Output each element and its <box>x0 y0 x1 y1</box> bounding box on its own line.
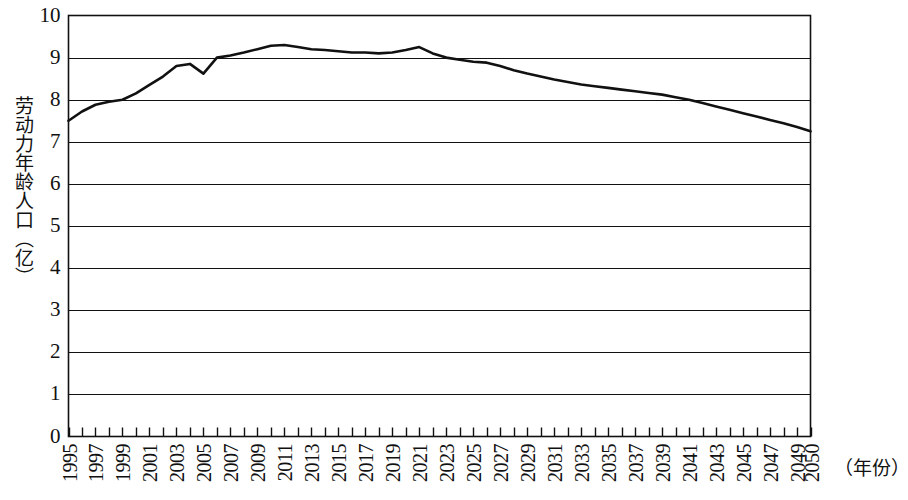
x-axis-title: （年份） <box>834 458 908 478</box>
plot-area <box>0 0 908 500</box>
x-tick-label: 2017 <box>356 444 376 500</box>
x-tick-label: 2041 <box>680 444 700 500</box>
x-tick-label: 2039 <box>653 444 673 500</box>
x-tick-label: 2003 <box>167 444 187 500</box>
x-tick-label: 2019 <box>383 444 403 500</box>
x-tick-label: 2011 <box>275 444 295 500</box>
x-tick-label: 2047 <box>761 444 781 500</box>
x-tick-label: 2001 <box>140 444 160 500</box>
x-tick-label: 2025 <box>464 444 484 500</box>
x-tick-label: 2005 <box>194 444 214 500</box>
x-tick-label: 2007 <box>221 444 241 500</box>
x-tick-label: 2045 <box>734 444 754 500</box>
x-tick-label: 2043 <box>707 444 727 500</box>
x-tick-label: 2031 <box>545 444 565 500</box>
x-axis-ticks <box>70 428 812 437</box>
x-tick-label: 2023 <box>437 444 457 500</box>
x-tick-label: 2037 <box>626 444 646 500</box>
x-tick-label: 2009 <box>248 444 268 500</box>
gridlines <box>69 59 811 395</box>
x-tick-label: 1995 <box>60 444 80 500</box>
x-tick-label: 2013 <box>302 444 322 500</box>
x-tick-label: 2015 <box>329 444 349 500</box>
x-tick-label: 2027 <box>491 444 511 500</box>
x-tick-label: 1997 <box>86 444 106 500</box>
x-tick-label: 2029 <box>518 444 538 500</box>
x-tick-label: 1999 <box>113 444 133 500</box>
chart-container: 劳动力年龄人口（亿） 109876543210 1995199719992001… <box>0 0 908 500</box>
x-tick-label: 2033 <box>572 444 592 500</box>
x-tick-label: 2050 <box>802 444 822 500</box>
x-tick-label: 2035 <box>599 444 619 500</box>
x-tick-label: 2021 <box>410 444 430 500</box>
